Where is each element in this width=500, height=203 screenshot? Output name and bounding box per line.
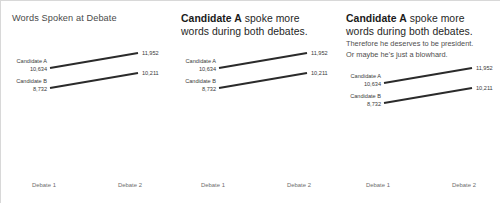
series-value-candidate-b-left: 8,732 [367, 101, 381, 107]
series-label-candidate-a: Candidate A [351, 73, 382, 79]
series-value-candidate-a-right: 11,952 [311, 50, 328, 56]
series-value-candidate-a-left: 10,634 [364, 81, 381, 87]
panel-emphasis-title-with-subtitle: Candidate A spoke more words during both… [336, 1, 500, 203]
series-label-candidate-b: Candidate B [350, 93, 381, 99]
panel-2-headline-line2: words during both debates. [181, 25, 330, 38]
series-line-candidate-a [50, 53, 138, 68]
axis-label-debate-1: Debate 1 [366, 182, 390, 188]
panel-3-headline-rest: spoke more [407, 13, 465, 24]
panel-plain-title: Words Spoken at Debate Candidate A 10,63… [2, 1, 167, 203]
panel-3-headline-line2: words during both debates. [346, 25, 495, 38]
series-line-candidate-a [384, 68, 472, 83]
panel-2-headline-bold: Candidate A [181, 13, 242, 24]
series-value-candidate-b-right: 10,211 [476, 85, 493, 91]
series-value-candidate-a-right: 11,952 [476, 65, 493, 71]
axis-label-debate-1: Debate 1 [201, 182, 225, 188]
panel-3-headline-bold: Candidate A [346, 13, 407, 24]
panel-2-title-block: Candidate A spoke more words during both… [181, 12, 330, 38]
panel-3-subtitle-line-1: Therefore he deserves to be president. [346, 39, 495, 49]
panel-3-title-block: Candidate A spoke more words during both… [346, 12, 495, 60]
series-value-candidate-b-right: 10,211 [311, 70, 328, 76]
series-value-candidate-b-left: 8,732 [33, 86, 47, 92]
series-line-candidate-b [219, 73, 307, 88]
series-line-candidate-a [219, 53, 307, 68]
series-value-candidate-a-left: 10,634 [30, 66, 47, 72]
series-line-candidate-b [50, 73, 138, 88]
slopegraph-svg: Candidate A 10,634 Candidate B 8,732 11,… [2, 41, 167, 101]
series-label-candidate-a: Candidate A [17, 58, 48, 64]
series-value-candidate-b-left: 8,732 [202, 86, 216, 92]
panel-1-axis: Debate 1 Debate 2 [2, 182, 167, 192]
panel-3-plot: Candidate A 10,634 Candidate B 8,732 11,… [336, 56, 500, 116]
panel-1-plot: Candidate A 10,634 Candidate B 8,732 11,… [2, 41, 167, 101]
panel-2-headline: Candidate A spoke more [181, 12, 330, 25]
panel-2-headline-rest: spoke more [242, 13, 300, 24]
panel-3-headline: Candidate A spoke more [346, 12, 495, 25]
panel-2-plot: Candidate A 10,634 Candidate B 8,732 11,… [171, 41, 336, 101]
panel-1-title-block: Words Spoken at Debate [12, 12, 161, 25]
panel-3-axis: Debate 1 Debate 2 [336, 182, 500, 192]
panel-2-axis: Debate 1 Debate 2 [171, 182, 336, 192]
slopegraph-svg: Candidate A 10,634 Candidate B 8,732 11,… [336, 56, 500, 116]
series-value-candidate-a-right: 11,952 [142, 50, 159, 56]
series-label-candidate-a: Candidate A [186, 58, 217, 64]
series-label-candidate-b: Candidate B [185, 78, 216, 84]
series-label-candidate-b: Candidate B [16, 78, 47, 84]
axis-label-debate-1: Debate 1 [32, 182, 56, 188]
slopegraph-comparison-figure: Words Spoken at Debate Candidate A 10,63… [0, 0, 500, 203]
axis-label-debate-2: Debate 2 [452, 182, 476, 188]
axis-label-debate-2: Debate 2 [287, 182, 311, 188]
series-value-candidate-a-left: 10,634 [199, 66, 216, 72]
panel-emphasis-title: Candidate A spoke more words during both… [171, 1, 336, 203]
page-title: Words Spoken at Debate [12, 12, 161, 25]
series-value-candidate-b-right: 10,211 [142, 70, 159, 76]
series-line-candidate-b [384, 88, 472, 103]
axis-label-debate-2: Debate 2 [118, 182, 142, 188]
slopegraph-svg: Candidate A 10,634 Candidate B 8,732 11,… [171, 41, 336, 101]
